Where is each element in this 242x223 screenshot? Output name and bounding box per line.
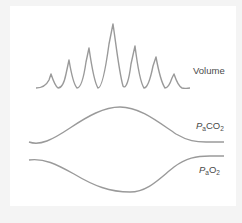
paco2-label-sub-2: 2 [220,125,224,132]
paco2-trace [29,107,224,143]
pao2-label-sub-2: 2 [216,169,220,176]
pao2-label: PaO2 [199,164,220,176]
volume-label: Volume [193,65,225,76]
paco2-label-gas: CO [206,120,220,131]
pao2-trace [29,156,224,192]
volume-trace [36,24,190,88]
paco2-label: PaCO2 [196,120,224,132]
respiration-diagram [0,0,242,223]
